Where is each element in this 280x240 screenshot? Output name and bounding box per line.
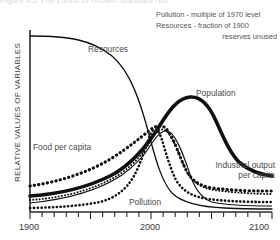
curve-label-pollution: Pollution [129, 197, 161, 207]
curve-label-industrial-line2: per capita [199, 170, 275, 180]
figure-limits-to-growth: Figure 4.2 The Limits to Growth standard… [0, 0, 280, 240]
curve-label-population: Population [196, 88, 236, 98]
curve-label-industrial-output: Industrial output per capita [199, 160, 275, 180]
curve-label-resources: Resources [88, 44, 128, 54]
curve-resources [30, 36, 272, 209]
curve-label-industrial-line1: Industrial output [199, 160, 275, 170]
x-tick-label-2100: 2100 [249, 222, 269, 232]
x-tick-label-2000: 2000 [140, 222, 160, 232]
x-axis-ticks [30, 212, 272, 219]
curve-label-food-per-capita: Food per capita [33, 142, 91, 152]
x-tick-label-1900: 1900 [19, 222, 39, 232]
